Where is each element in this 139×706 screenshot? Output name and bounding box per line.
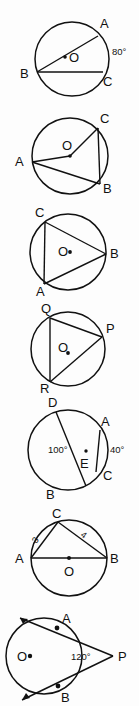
point-label-c: C	[52, 506, 61, 521]
point-label-a: A	[101, 414, 110, 429]
tangency-point-a	[55, 626, 60, 631]
figure-5-canvas: D A C B E 100° 40°	[0, 398, 139, 504]
point-label-a: A	[100, 16, 109, 31]
chord-ab	[32, 162, 100, 184]
center-label-o: O	[69, 50, 79, 65]
intersection-dot-e	[84, 449, 87, 452]
chord-ba	[37, 36, 98, 72]
center-label-o: O	[17, 649, 27, 664]
point-label-e: E	[80, 456, 89, 471]
figure-6-circle-diameter-right-triangle: A B C O 3 4	[0, 506, 139, 604]
chord-cb	[98, 128, 100, 184]
center-dot	[68, 154, 72, 158]
figure-4-canvas: Q P R O	[0, 300, 139, 396]
point-label-a: A	[15, 551, 24, 566]
figure-2-circle-radii-chords: A B C O	[0, 108, 139, 204]
worksheet-page: A B C O 80° A B C O C A	[0, 0, 139, 706]
point-label-d: D	[48, 398, 57, 410]
point-label-a: A	[62, 611, 71, 626]
point-label-c: C	[35, 205, 44, 220]
center-label-o: O	[62, 138, 72, 153]
chord-ca	[44, 222, 45, 284]
figure-3-canvas: C A B O	[0, 204, 139, 300]
circle-outline	[28, 410, 108, 490]
point-label-a: A	[15, 154, 24, 169]
point-label-b: B	[110, 551, 119, 566]
center-dot	[68, 250, 72, 254]
figure-1-circle-inscribed-angle: A B C O 80°	[0, 4, 139, 108]
point-label-b: B	[61, 690, 70, 705]
angle-label-80: 80°	[112, 46, 127, 57]
point-label-p: P	[118, 649, 127, 664]
center-dot	[67, 556, 71, 560]
figure-4-circle-inscribed-triangle-qpr: Q P R O	[0, 300, 139, 396]
point-label-b: B	[20, 66, 29, 81]
point-label-p: P	[106, 321, 115, 336]
chord-ac	[96, 430, 100, 472]
figure-7-circle-two-tangents-from-point: O A B P 120°	[0, 608, 139, 706]
point-label-b: B	[103, 181, 112, 196]
point-label-a: A	[36, 284, 45, 299]
angle-label-100: 100°	[48, 444, 68, 455]
side-length-ac: 3	[30, 535, 41, 545]
center-label-o: O	[58, 340, 68, 355]
figure-6-canvas: A B C O 3 4	[0, 506, 139, 604]
angle-label-120: 120°	[71, 651, 91, 662]
point-label-r: R	[40, 381, 49, 396]
figure-5-circle-intersecting-chords: D A C B E 100° 40°	[0, 398, 139, 504]
tangency-point-b	[56, 684, 61, 689]
radius-ao	[32, 156, 70, 162]
point-label-b: B	[110, 246, 119, 261]
center-dot	[28, 654, 32, 658]
point-label-c: C	[100, 111, 109, 126]
center-label-o: O	[58, 244, 68, 259]
arrow-head-lower	[22, 693, 30, 700]
angle-label-40: 40°	[110, 444, 125, 455]
point-label-c: C	[103, 468, 112, 483]
point-label-c: C	[103, 74, 112, 89]
figure-3-circle-inscribed-triangle-cab: C A B O	[0, 204, 139, 300]
point-label-b: B	[46, 487, 55, 502]
chord-ab	[44, 254, 106, 284]
center-label-o: O	[64, 564, 74, 579]
radius-oc	[70, 128, 98, 156]
figure-2-canvas: A B C O	[0, 108, 139, 204]
point-label-q: Q	[41, 301, 51, 316]
chord-qp	[50, 318, 102, 337]
figure-1-canvas: A B C O 80°	[0, 4, 139, 108]
center-dot	[63, 55, 67, 59]
figure-7-canvas: O A B P 120°	[0, 608, 139, 706]
